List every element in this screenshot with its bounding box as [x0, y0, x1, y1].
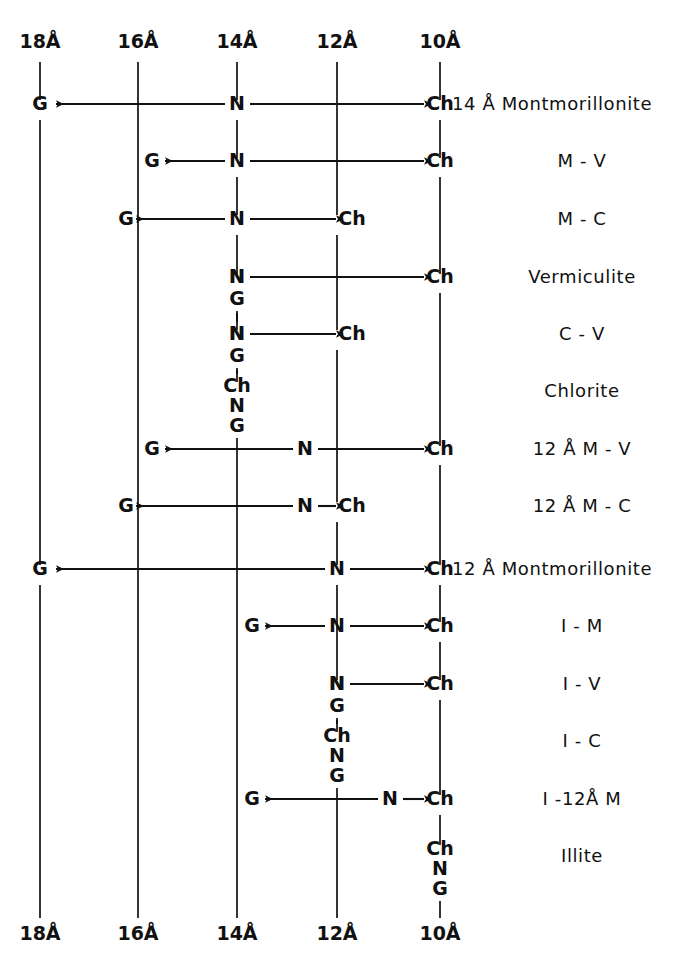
stack-illite-10a-item-2: N [432, 857, 448, 879]
row-m-c-node-g: G [118, 207, 134, 229]
row-m-c-label: M - C [557, 208, 606, 229]
row-mineral-labels: 14 Å MontmorilloniteM - VM - CVermiculit… [452, 93, 652, 866]
row-m-c-node-ch: Ch [338, 207, 365, 229]
row-i-v-node-ch: Ch [426, 672, 453, 694]
row-c-v-label: C - V [559, 323, 605, 344]
stack-i-c-12a-item-3: Ch [323, 724, 350, 746]
row-chlorite-label: Chlorite [544, 380, 619, 401]
row-vermiculite-node-ch: Ch [426, 265, 453, 287]
stack-i-c-12a-item-1: N [329, 672, 345, 694]
row-m-v-node-ch: Ch [426, 149, 453, 171]
row-14a-montmorillonite-node-n: N [229, 92, 245, 114]
stack-chlorite-14a-item-5: Ch [223, 374, 250, 396]
row-i-m-node-g: G [244, 614, 260, 636]
row-i-12a-m-label: I -12Å M [543, 788, 622, 809]
axis-label-top-1: 18Å [19, 29, 60, 52]
row-12a-montmorillonite-node-g: G [32, 557, 48, 579]
row-i-m-node-ch: Ch [426, 614, 453, 636]
stack-illite-10a-item-1: Ch [426, 837, 453, 859]
row-12a-m-c-label: 12 Å M - C [533, 495, 632, 516]
row-14a-montmorillonite-node-g: G [32, 92, 48, 114]
stack-chlorite-14a-item-6: N [229, 394, 245, 416]
row-14a-montmorillonite-node-ch: Ch [426, 92, 453, 114]
row-m-c-node-n: N [229, 207, 245, 229]
column-guide-lines [40, 62, 440, 918]
row-m-v-node-g: G [144, 149, 160, 171]
row-12a-m-v-node-ch: Ch [426, 437, 453, 459]
mineral-state-nodes: GNChGNChGNChNChNChGNChGNChGNChGNChNChGNC… [32, 92, 454, 809]
axis-label-bottom-2: 16Å [117, 921, 158, 944]
row-i-12a-m-node-n: N [382, 787, 398, 809]
row-12a-montmorillonite-node-n: N [329, 557, 345, 579]
stack-chlorite-14a-item-7: G [229, 414, 245, 436]
clay-mineral-diagram: 18Å16Å14Å12Å10Å 18Å16Å14Å12Å10Å GNChGNCh… [0, 0, 687, 972]
stack-illite-10a-item-3: G [432, 877, 448, 899]
stack-chlorite-14a-item-1: N [229, 265, 245, 287]
row-m-v-label: M - V [558, 150, 607, 171]
row-12a-m-c-node-ch: Ch [338, 494, 365, 516]
column-axis-labels-top: 18Å16Å14Å12Å10Å [19, 29, 460, 52]
column-axis-labels-bottom: 18Å16Å14Å12Å10Å [19, 921, 460, 944]
row-12a-m-v-label: 12 Å M - V [533, 438, 632, 459]
axis-label-top-3: 14Å [216, 29, 257, 52]
axis-label-top-2: 16Å [117, 29, 158, 52]
axis-label-top-4: 12Å [316, 29, 357, 52]
row-12a-m-v-node-n: N [297, 437, 313, 459]
stack-chlorite-14a-item-3: N [229, 322, 245, 344]
row-i-v-label: I - V [563, 673, 602, 694]
row-i-m-node-n: N [329, 614, 345, 636]
row-m-v-node-n: N [229, 149, 245, 171]
row-i-12a-m-node-ch: Ch [426, 787, 453, 809]
row-12a-m-c-node-n: N [297, 494, 313, 516]
stack-i-c-12a-item-2: G [329, 694, 345, 716]
stack-chlorite-14a-item-4: G [229, 344, 245, 366]
row-14a-montmorillonite-label: 14 Å Montmorillonite [452, 93, 652, 114]
row-i-12a-m-node-g: G [244, 787, 260, 809]
axis-label-bottom-5: 10Å [419, 921, 460, 944]
stack-i-c-12a-item-5: G [329, 764, 345, 786]
stack-chlorite-14a-item-2: G [229, 287, 245, 309]
row-i-m-label: I - M [561, 615, 603, 636]
row-12a-montmorillonite-node-ch: Ch [426, 557, 453, 579]
axis-label-bottom-1: 18Å [19, 921, 60, 944]
axis-label-top-5: 10Å [419, 29, 460, 52]
axis-label-bottom-3: 14Å [216, 921, 257, 944]
row-illite-label: Illite [561, 845, 603, 866]
figure-canvas: 18Å16Å14Å12Å10Å 18Å16Å14Å12Å10Å GNChGNCh… [0, 0, 687, 972]
stack-i-c-12a-item-4: N [329, 744, 345, 766]
row-12a-m-c-node-g: G [118, 494, 134, 516]
row-c-v-node-ch: Ch [338, 322, 365, 344]
row-vermiculite-label: Vermiculite [528, 266, 636, 287]
row-12a-m-v-node-g: G [144, 437, 160, 459]
row-12a-montmorillonite-label: 12 Å Montmorillonite [452, 558, 652, 579]
axis-label-bottom-4: 12Å [316, 921, 357, 944]
row-i-c-label: I - C [563, 730, 602, 751]
